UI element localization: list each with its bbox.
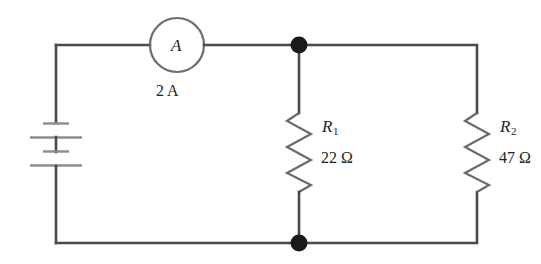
r2-zigzag xyxy=(465,113,489,192)
resistor-r1-symbol xyxy=(287,45,311,243)
top-junction-dot xyxy=(291,37,308,54)
r1-zigzag xyxy=(287,113,311,192)
wire-top-junction-to-r2-top xyxy=(299,45,477,113)
wire-bottom-right-rail-to-r2 xyxy=(299,192,477,243)
resistor-r2-value-label: 47 Ω xyxy=(499,150,531,166)
r2-name-main: R xyxy=(500,117,510,136)
ammeter-symbol-label: A xyxy=(171,37,181,54)
resistor-r2-symbol xyxy=(465,113,489,192)
r2-name-sub: 2 xyxy=(511,125,517,137)
resistor-r1-value-label: 22 Ω xyxy=(321,150,353,166)
resistor-r2-name-label: R2 xyxy=(500,118,516,137)
r1-name-sub: 1 xyxy=(333,125,339,137)
r1-name-main: R xyxy=(322,117,332,136)
ammeter-reading-label: 2 A xyxy=(156,83,179,99)
resistor-r1-name-label: R1 xyxy=(322,118,338,137)
circuit-schematic-svg xyxy=(0,0,541,264)
bottom-junction-dot xyxy=(291,235,308,252)
battery-group xyxy=(30,45,82,243)
circuit-diagram: A 2 A R1 22 Ω R2 47 Ω xyxy=(0,0,541,264)
